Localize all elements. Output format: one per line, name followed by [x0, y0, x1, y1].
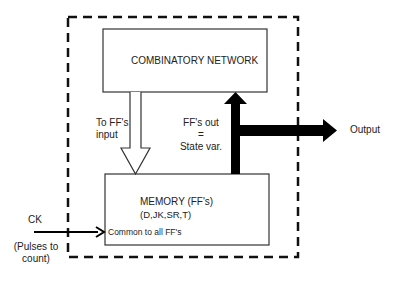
output-label: Output: [350, 124, 380, 136]
memory-label-2: (D,JK,SR,T): [140, 209, 191, 221]
clock-label: CK: [28, 214, 42, 226]
output-arrow: [240, 119, 337, 142]
clock-note-2: count): [8, 253, 64, 265]
ff-out-label-2: =: [178, 129, 224, 141]
combinatory-network-label: COMBINATORY NETWORK: [131, 55, 258, 67]
to-ff-input-label-2: input: [96, 129, 118, 141]
clock-note-1: (Pulses to: [8, 241, 64, 253]
common-clock-note: Common to all FF's: [108, 226, 181, 238]
to-ff-input-label-1: To FF's: [96, 117, 128, 129]
state-var-label: State var.: [176, 141, 226, 153]
memory-label-1: MEMORY (FF's): [140, 196, 213, 208]
to-ff-input-arrow: [121, 92, 150, 174]
ff-out-label-1: FF's out: [178, 117, 224, 129]
